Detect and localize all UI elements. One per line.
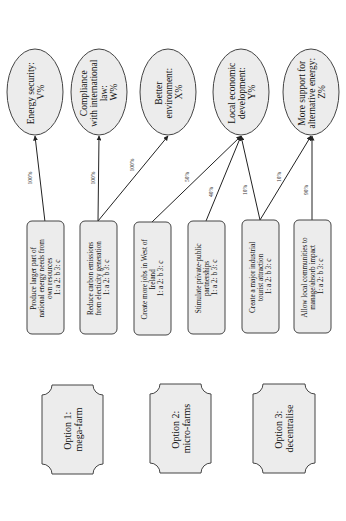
goal-value: W% [109, 83, 119, 100]
edge-weight-label: 50% [184, 172, 190, 183]
decision-diagram: 100% 100% 100% 50% 40% 10% 10% 90% Energ… [0, 0, 346, 521]
objective-scores: 1: a 2: b 3: c [157, 261, 165, 297]
objective-line: tourist attraction [257, 253, 265, 301]
objective-line: Reduce carbon emissions [87, 242, 95, 315]
goal-line: Better [154, 81, 164, 105]
objective-line: partnerships [203, 261, 211, 296]
objective-line: Ireland [149, 269, 157, 290]
goal-value: V% [36, 85, 46, 100]
objective-box-produce-energy: Produce larger part of national energy n… [27, 221, 64, 334]
option-line: mega-farm [73, 407, 84, 451]
edge-labels: 100% 100% 100% 50% 40% 10% 10% 90% [27, 158, 309, 197]
option-box-mega-farm: Option 1: mega-farm [42, 385, 103, 474]
objective-scores: 1: a 2: b 3: c [317, 259, 325, 295]
objective-line: Create more jobs in West of [141, 239, 149, 320]
edge-weight-label: 90% [303, 185, 309, 196]
option-box-decentralise: Option 3: decentralise [253, 384, 315, 473]
goal-value: X% [174, 85, 184, 100]
objective-box-local-communities: Allow local communities to manage/absorb… [294, 220, 331, 333]
svg-text:Option 3: decentralise: Option 3: decentralise [273, 404, 295, 452]
edge-o2-g3 [98, 136, 168, 221]
edge-weight-label: 100% [27, 171, 33, 184]
objective-line: Allow local communities to [301, 237, 309, 317]
goal-line: development: [237, 67, 247, 119]
objective-box-private-public: Stimulate private-public partnerships 1:… [188, 221, 225, 334]
edge-o3-g4 [152, 136, 241, 222]
goal-value: Y% [247, 85, 257, 100]
edge-o1-g1 [35, 136, 45, 222]
edge-weight-label: 10% [276, 172, 282, 183]
edge-o5-g4 [241, 136, 260, 220]
goal-line: Local economic [227, 63, 237, 124]
edge-weight-label: 100% [129, 158, 135, 171]
objective-line: own resources [46, 258, 54, 300]
goal-node-compliance: Compliance with international law: W% [71, 49, 127, 135]
edge-o5-g5 [260, 136, 311, 220]
svg-text:Option 1: mega-farm: Option 1: mega-farm [62, 407, 84, 451]
goal-node-better-environment: Better environment: X% [140, 49, 196, 135]
goal-line: More support for [297, 60, 307, 126]
option-line: Option 3: [273, 411, 284, 449]
option-line: decentralise [284, 404, 295, 452]
objective-line: Produce larger part of [30, 246, 38, 309]
edge-weight-label: 10% [242, 185, 248, 196]
goal-node-local-economic-development: Local economic development: Y% [213, 49, 269, 135]
goal-line: law: [99, 85, 109, 101]
objective-line: from electicity generation [95, 241, 103, 316]
edge-o4-g4 [206, 136, 241, 221]
goal-node-energy-security: Energy security: V% [7, 49, 63, 135]
option-line: Option 1: [62, 412, 73, 450]
objective-scores: 1: a 2: b 3: c [211, 260, 219, 296]
svg-text:Option 2: micro-farms: Option 2: micro-farms [170, 404, 192, 454]
edges [35, 136, 312, 222]
objective-box-reduce-carbon: Reduce carbon emissions from electicity … [80, 221, 117, 334]
edge-weight-label: 100% [90, 171, 96, 184]
objective-line: manage/absorb impact [309, 245, 317, 310]
edge-o2-g2 [98, 136, 99, 221]
objective-scores: 1: a 2: b 3: c [265, 259, 273, 295]
goal-line: Energy security: [26, 62, 36, 124]
objective-box-tourist-attraction: Create a major industrial tourist attrac… [242, 220, 279, 333]
option-box-micro-farms: Option 2: micro-farms [150, 384, 211, 473]
objective-line: Stimulate private-public [195, 244, 203, 314]
objective-line: national energy needs from [38, 239, 46, 318]
goal-line: Compliance [79, 70, 89, 116]
objective-box-create-jobs: Create more jobs in West of Ireland 1: a… [134, 222, 171, 335]
objective-line: Create a major industrial [249, 242, 257, 313]
goal-value: Z% [317, 85, 327, 99]
objective-scores: 1: a 2: b 3: c [54, 260, 62, 296]
option-line: Option 2: [170, 411, 181, 449]
option-line: micro-farms [181, 404, 192, 454]
goal-line: with international [89, 59, 99, 127]
objective-scores: 1: a 2: b 3: c [103, 260, 111, 296]
goal-line: environment: [164, 68, 174, 119]
goal-line: alternative energy: [307, 58, 317, 129]
goal-node-alternative-energy: More support for alternative energy: Z% [283, 49, 339, 135]
edge-weight-label: 40% [208, 187, 214, 198]
